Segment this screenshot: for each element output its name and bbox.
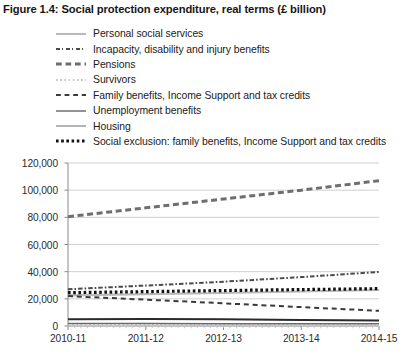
y-axis-tick-label: 120,000 [6,158,58,169]
series-line [68,296,379,311]
x-axis-tick-label: 2011-12 [116,333,176,344]
y-axis-tick-label: 80,000 [6,212,58,223]
series-line [68,181,379,217]
y-axis-tick-label: 60,000 [6,239,58,250]
x-axis-tick-label: 2010-11 [38,333,98,344]
x-axis-tick-label: 2013-14 [271,333,331,344]
series-line [68,319,379,320]
x-axis-tick-label: 2014-15 [349,333,402,344]
series-line [68,290,379,295]
series-line [68,272,379,289]
y-axis-tick-label: 100,000 [6,185,58,196]
y-axis-tick-label: 20,000 [6,293,58,304]
y-axis-tick-label: 0 [6,321,58,332]
x-axis-tick-label: 2012-13 [194,333,254,344]
y-axis-tick-label: 40,000 [6,266,58,277]
